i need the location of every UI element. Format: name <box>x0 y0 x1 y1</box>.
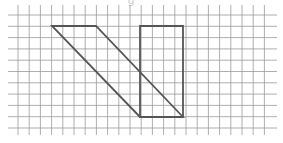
grid-diagram <box>0 0 283 143</box>
grid-lines <box>8 5 277 135</box>
